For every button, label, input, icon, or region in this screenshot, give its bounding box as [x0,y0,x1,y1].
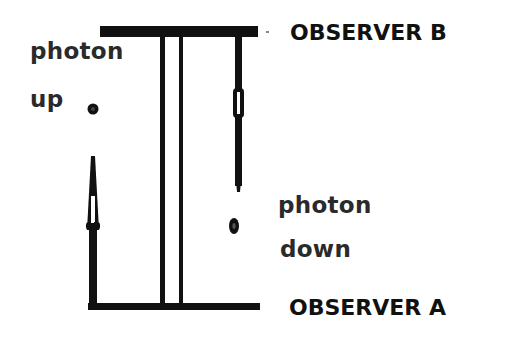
observer-b-platform [100,26,258,37]
photon-clock-diagram: OBSERVER B photon up photon down OBSERVE… [0,0,531,342]
photon-up-label-line1: photon [30,40,124,63]
observer-b-tick [266,31,269,33]
rail-right [179,36,183,308]
photon-up-label-line2: up [30,88,63,111]
observer-a-platform [88,303,260,310]
observer-a-label: OBSERVER A [289,297,446,319]
photon-down-label-line2: down [280,238,351,261]
photon-up-arrow-icon [86,156,100,308]
rail-left [160,36,165,308]
observer-b-label: OBSERVER B [290,22,447,44]
photon-down-label-line1: photon [278,194,372,217]
photon-down-arrow-icon [233,36,244,192]
